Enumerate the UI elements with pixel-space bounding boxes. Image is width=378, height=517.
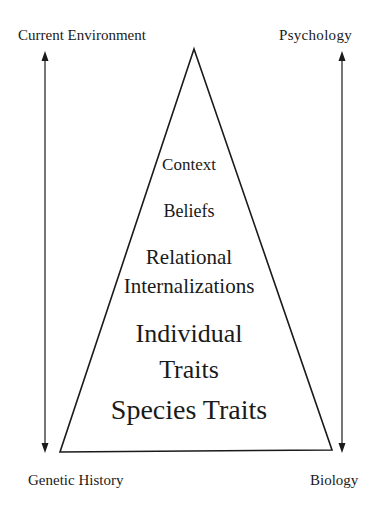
- layer-internalizations: Internalizations: [0, 276, 378, 297]
- layer-species-traits: Species Traits: [0, 396, 378, 424]
- layer-individual: Individual: [0, 321, 378, 347]
- layer-context: Context: [0, 156, 378, 173]
- label-current-environment: Current Environment: [18, 28, 146, 43]
- label-psychology: Psychology: [279, 28, 352, 43]
- layer-traits: Traits: [0, 357, 378, 383]
- label-biology: Biology: [310, 473, 358, 488]
- label-genetic-history: Genetic History: [28, 473, 123, 488]
- layer-beliefs: Beliefs: [0, 202, 378, 220]
- layer-relational: Relational: [0, 247, 378, 268]
